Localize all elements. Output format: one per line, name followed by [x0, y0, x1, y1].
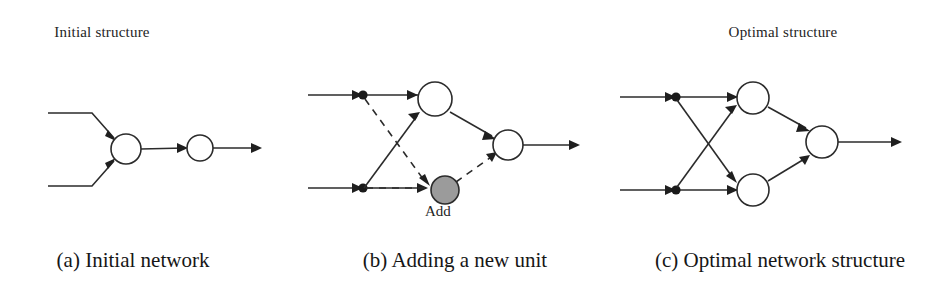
panel-optimal-network: Optimal structure [610, 0, 932, 281]
arrowhead-output [891, 137, 902, 147]
edge-input1-to-hidden-bottom [677, 100, 733, 178]
node-hidden-top [737, 82, 769, 114]
arrowhead-input2-hidden [408, 112, 420, 121]
junction-dot-input1 [671, 92, 680, 101]
arrowhead-hidden-bottom-output [799, 155, 810, 165]
node-new-unit [431, 176, 459, 204]
node-hidden-bottom [737, 174, 769, 206]
figure-network-growth: Initial structure (a) Initial network [0, 0, 932, 281]
node-output [806, 126, 838, 158]
junction-dot-input1 [358, 90, 367, 99]
edge-input2-to-hidden [48, 161, 114, 186]
panel-adding-new-unit: Add (b) Adding a new unit [300, 0, 610, 281]
junction-dot-input2 [671, 185, 680, 194]
panel-c-diagram [610, 0, 932, 281]
arrowhead-input1-hidden-bottom [726, 171, 737, 183]
panel-c-caption: (c) Optimal network structure [619, 248, 932, 273]
panel-b-caption: (b) Adding a new unit [300, 248, 610, 273]
edge-newunit-to-output-dashed [456, 155, 494, 182]
new-unit-label: Add [425, 203, 451, 220]
edge-hidden-bottom-to-output [768, 158, 806, 181]
arrowhead-input1-to-hidden [407, 90, 418, 100]
arrowhead-input2-hidden-top [725, 105, 737, 114]
edge-input1-to-newunit-dashed [365, 99, 426, 183]
edge-input2-to-hidden [364, 116, 417, 188]
arrowhead-output [569, 140, 580, 150]
node-output [493, 130, 523, 160]
panel-b-diagram [300, 0, 610, 281]
edge-input2-to-hidden-top [677, 110, 733, 187]
panel-a-diagram [0, 0, 300, 281]
edge-input1-to-hidden [48, 113, 114, 138]
node-output [187, 135, 213, 161]
panel-initial-network: Initial structure (a) Initial network [0, 0, 300, 281]
node-hidden [111, 134, 141, 164]
panel-a-caption: (a) Initial network [0, 248, 283, 273]
arrowhead-output [251, 143, 262, 153]
node-hidden [418, 82, 452, 116]
